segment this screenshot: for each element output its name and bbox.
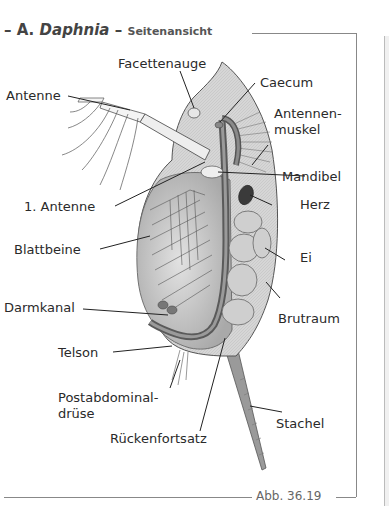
label-antenne: Antenne <box>6 88 61 103</box>
label-rueckenfortsatz: Rückenfortsatz <box>110 431 207 446</box>
tail-spine <box>226 350 266 470</box>
label-erste-antenne: 1. Antenne <box>24 199 95 214</box>
label-antennenmuskel-line2: muskel <box>274 122 320 137</box>
label-telson: Telson <box>58 345 98 360</box>
label-herz: Herz <box>300 197 330 212</box>
label-stachel: Stachel <box>276 416 324 431</box>
label-caecum: Caecum <box>260 75 313 90</box>
label-postabdominaldruese-line2: drüse <box>58 406 95 421</box>
label-postabdominaldruese-line1: Postabdominal- <box>58 390 158 405</box>
figure-caption: Abb. 36.19 <box>256 489 321 503</box>
label-blattbeine: Blattbeine <box>14 242 81 257</box>
label-darmkanal: Darmkanal <box>4 300 75 315</box>
label-ei: Ei <box>300 250 312 265</box>
label-brutraum: Brutraum <box>278 311 340 326</box>
label-antennenmuskel-line1: Antennen- <box>274 106 342 121</box>
label-mandibel: Mandibel <box>282 169 341 184</box>
label-facettenauge: Facettenauge <box>118 56 206 71</box>
